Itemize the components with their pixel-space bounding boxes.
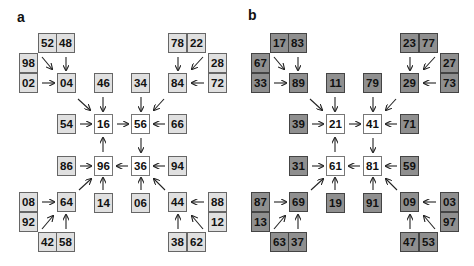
center-node-box: 21 (326, 114, 345, 134)
node-box: 78 (168, 33, 187, 53)
node-box: 19 (326, 193, 345, 213)
node-box: 06 (131, 193, 150, 213)
node-box: 58 (56, 232, 75, 252)
center-node-box: 16 (94, 114, 113, 134)
node-box: 04 (57, 73, 76, 93)
node-box: 42 (38, 232, 57, 252)
node-box: 38 (168, 232, 187, 252)
node-box: 22 (187, 33, 206, 53)
node-box: 77 (419, 33, 438, 53)
node-box: 97 (440, 212, 459, 232)
node-box: 94 (168, 156, 187, 176)
node-box: 12 (208, 212, 227, 232)
center-node-box: 81 (363, 156, 382, 176)
node-box: 73 (440, 73, 459, 93)
node-box: 64 (57, 192, 76, 212)
node-box: 72 (208, 73, 227, 93)
node-box: 83 (288, 33, 307, 53)
node-box: 13 (251, 212, 270, 232)
node-box: 46 (94, 73, 113, 93)
node-box: 84 (168, 73, 187, 93)
node-box: 54 (57, 114, 76, 134)
node-box: 08 (19, 192, 38, 212)
node-box: 27 (440, 53, 459, 73)
node-box: 33 (251, 73, 270, 93)
node-box: 52 (38, 33, 57, 53)
node-box: 28 (208, 53, 227, 73)
node-box: 79 (363, 73, 382, 93)
node-box: 92 (19, 212, 38, 232)
node-box: 53 (419, 232, 438, 252)
node-box: 59 (400, 156, 419, 176)
node-box: 47 (400, 232, 419, 252)
center-node-box: 56 (131, 114, 150, 134)
node-box: 23 (400, 33, 419, 53)
node-box: 87 (251, 192, 270, 212)
node-box: 09 (400, 192, 419, 212)
node-box: 02 (19, 73, 38, 93)
node-box: 31 (289, 156, 308, 176)
node-box: 89 (289, 73, 308, 93)
node-box: 37 (288, 232, 307, 252)
node-box: 03 (440, 192, 459, 212)
node-box: 29 (400, 73, 419, 93)
node-box: 66 (168, 114, 187, 134)
node-box: 67 (251, 53, 270, 73)
node-box: 91 (363, 193, 382, 213)
center-node-box: 41 (363, 114, 382, 134)
node-box: 17 (270, 33, 289, 53)
center-node-box: 36 (131, 156, 150, 176)
center-node-box: 61 (326, 156, 345, 176)
node-box: 86 (57, 156, 76, 176)
node-box: 48 (56, 33, 75, 53)
center-node-box: 96 (94, 156, 113, 176)
node-box: 88 (208, 192, 227, 212)
node-box: 62 (187, 232, 206, 252)
node-box: 71 (400, 114, 419, 134)
node-box: 98 (19, 53, 38, 73)
panel-b: b (232, 0, 469, 266)
node-box: 34 (131, 73, 150, 93)
panel-a: a (0, 0, 237, 266)
node-box: 69 (289, 192, 308, 212)
node-box: 44 (168, 192, 187, 212)
node-box: 14 (94, 193, 113, 213)
node-box: 63 (270, 232, 289, 252)
node-box: 11 (326, 73, 345, 93)
node-box: 39 (289, 114, 308, 134)
